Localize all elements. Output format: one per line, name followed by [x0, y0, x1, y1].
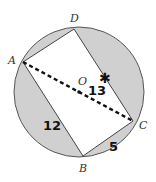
- label-b: B: [78, 162, 87, 175]
- label-ab-length: 12: [43, 118, 61, 133]
- label-d: D: [69, 12, 79, 25]
- label-a: A: [7, 54, 16, 67]
- star-icon: ✱: [99, 70, 111, 86]
- center-point-o: [77, 90, 81, 94]
- label-o: O: [78, 75, 87, 88]
- label-bc-length: 5: [109, 139, 118, 154]
- label-c: C: [139, 119, 148, 132]
- circle-diagram: A D C B O 13 12 5 ✱: [0, 0, 156, 182]
